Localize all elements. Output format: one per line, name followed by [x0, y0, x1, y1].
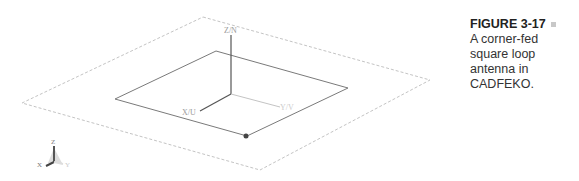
z-axis-label: Z/N: [224, 26, 237, 35]
triad-z-label: Z: [51, 138, 55, 146]
triad-y-label: Y: [65, 161, 70, 169]
orientation-triad: Z X Y: [37, 138, 70, 169]
triad-y-axis: [54, 162, 63, 164]
square-bullet-icon: [551, 22, 556, 27]
x-axis: [200, 94, 231, 111]
figure-caption: FIGURE 3-17 A corner-fed square loop ant…: [470, 17, 579, 92]
triad-x-label: X: [37, 161, 42, 169]
antenna-diagram: Z/N X/U Y/V Z X Y: [0, 0, 430, 181]
cadfeko-view: Z/N X/U Y/V Z X Y: [0, 0, 430, 181]
feed-point: [244, 134, 249, 139]
x-axis-label: X/U: [182, 108, 196, 117]
y-axis: [231, 94, 280, 107]
y-axis-label: Y/V: [280, 103, 294, 112]
figure-label: FIGURE 3-17: [470, 17, 546, 31]
ground-plane-outline: [22, 17, 430, 170]
caption-text: A corner-fed square loop antenna in CADF…: [470, 32, 579, 92]
